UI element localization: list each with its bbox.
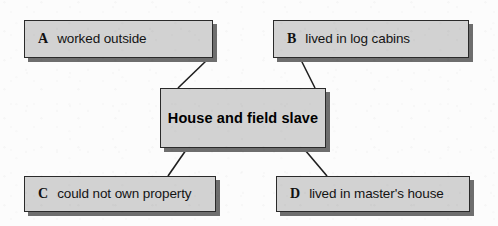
diagram-canvas: A worked outside B lived in log cabins H… bbox=[0, 0, 498, 226]
option-box-b[interactable]: B lived in log cabins bbox=[273, 20, 469, 58]
option-b-key: B bbox=[287, 31, 296, 47]
center-concept-box[interactable]: House and field slave bbox=[160, 88, 326, 148]
option-box-d[interactable]: D lived in master's house bbox=[276, 176, 470, 212]
option-d-key: D bbox=[290, 186, 300, 202]
option-box-c[interactable]: C could not own property bbox=[24, 176, 216, 212]
connector-a-center bbox=[178, 60, 207, 88]
option-d-label: lived in master's house bbox=[309, 186, 444, 201]
option-d-content: D lived in master's house bbox=[290, 186, 444, 202]
option-b-content: B lived in log cabins bbox=[287, 31, 410, 47]
option-b-label: lived in log cabins bbox=[305, 31, 410, 46]
connector-b-center bbox=[301, 60, 315, 88]
option-a-key: A bbox=[38, 31, 48, 47]
center-concept-content: House and field slave bbox=[168, 110, 318, 126]
option-box-a[interactable]: A worked outside bbox=[24, 20, 213, 58]
option-c-content: C could not own property bbox=[38, 186, 192, 202]
connector-center-d bbox=[305, 150, 327, 176]
option-c-label: could not own property bbox=[57, 186, 191, 201]
option-a-label: worked outside bbox=[57, 31, 146, 46]
center-concept-label: House and field slave bbox=[168, 110, 318, 126]
option-a-content: A worked outside bbox=[38, 31, 147, 47]
connector-center-c bbox=[168, 150, 186, 176]
option-c-key: C bbox=[38, 186, 48, 202]
